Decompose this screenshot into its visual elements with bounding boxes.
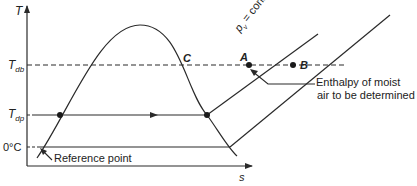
y-axis-label: T <box>15 5 22 17</box>
t-dp-sub: dp <box>15 114 24 123</box>
x-axis-label: s <box>239 172 245 183</box>
point-c-label: C <box>183 53 191 64</box>
enthalpy-annotation-line1: Enthalpy of moist <box>316 77 400 88</box>
zero-celsius-label: 0°C <box>3 142 21 153</box>
enthalpy-pointer-line <box>252 71 315 84</box>
t-dp-arrow <box>150 112 158 118</box>
t-db-label: Tdb <box>8 59 24 74</box>
point-a-label: A <box>240 52 248 63</box>
point-dew-dot <box>204 112 210 118</box>
point-b-label: B <box>300 60 308 71</box>
enthalpy-annotation-line2: air to be determined <box>317 90 415 101</box>
saturation-dome <box>37 25 237 158</box>
point-b-dot <box>290 62 296 68</box>
point-tdp-axis-dot <box>57 112 63 118</box>
t-dp-label: Tdp <box>8 108 24 123</box>
t-db-sub: db <box>15 65 24 74</box>
isobar-pv-line <box>207 34 318 115</box>
reference-point-label: Reference point <box>54 153 132 164</box>
